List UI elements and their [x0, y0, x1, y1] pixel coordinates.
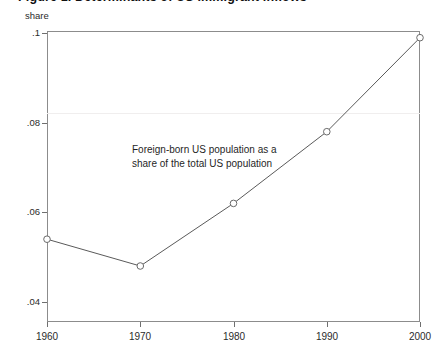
data-series-layer: [0, 0, 441, 353]
data-point-marker: [324, 128, 331, 135]
data-point-marker: [230, 200, 237, 207]
data-point-marker: [44, 236, 51, 243]
data-point-marker: [137, 263, 144, 270]
plot-annotation: Foreign-born US population as a share of…: [132, 143, 277, 170]
data-point-marker: [417, 34, 424, 41]
